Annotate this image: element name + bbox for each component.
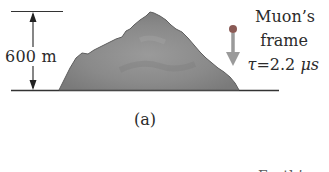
muon-frame-title-line1: Muon’s xyxy=(255,7,315,27)
muon-lifetime-label: τ=2.2 μs xyxy=(248,55,319,75)
muon-particle-icon xyxy=(226,25,240,66)
muon-frame-title-line2: frame xyxy=(260,31,308,51)
tau-value: 2.2 xyxy=(270,55,295,74)
equals-sign: = xyxy=(256,55,269,74)
figure-caption: (a) xyxy=(134,110,156,129)
partial-cutoff-text: Earth’s xyxy=(258,166,310,172)
height-label: 600 m xyxy=(4,47,58,66)
tau-unit: μs xyxy=(300,55,319,74)
mountain-icon xyxy=(59,12,239,90)
